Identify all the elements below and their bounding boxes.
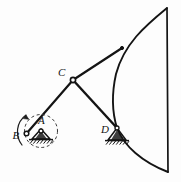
crank-pin-b	[24, 131, 29, 136]
label-c: C	[58, 66, 66, 78]
mechanism-figure: B A C D	[0, 0, 181, 182]
coupler-joint-c	[70, 77, 75, 82]
mechanism-drawing-canvas: B A C D	[0, 0, 181, 182]
sector-right-edge	[167, 8, 168, 172]
ground-hatching-a	[30, 140, 53, 144]
link-b-c	[27, 80, 74, 134]
pin-support-a	[29, 129, 53, 144]
link-c-d	[73, 80, 117, 128]
label-a: A	[37, 114, 45, 126]
body-attachment-e	[120, 46, 123, 49]
link-c-e	[73, 48, 122, 80]
fixed-pivot-a	[39, 129, 43, 133]
fixed-pivot-d	[115, 126, 119, 130]
rotation-arrowhead	[23, 115, 29, 119]
label-d: D	[100, 123, 109, 135]
label-b: B	[13, 129, 20, 141]
sector-left-arc	[113, 8, 168, 172]
curved-sector-body	[113, 8, 168, 172]
